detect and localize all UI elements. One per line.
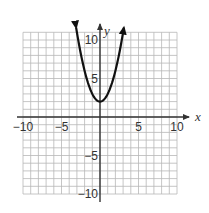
parabola-graph: −10−5510105−5−10 x y <box>0 0 209 213</box>
y-tick-label: 10 <box>85 33 99 47</box>
x-tick-label: −10 <box>13 120 34 134</box>
x-axis-label: x <box>194 109 201 124</box>
y-tick-label: −10 <box>78 187 99 201</box>
y-axis-label: y <box>102 23 110 38</box>
x-tick-label: 10 <box>170 120 184 134</box>
axes <box>17 24 189 202</box>
x-tick-label: −5 <box>55 120 69 134</box>
y-tick-label: −5 <box>84 149 98 163</box>
x-tick-label: 5 <box>135 120 142 134</box>
y-tick-label: 5 <box>91 72 98 86</box>
